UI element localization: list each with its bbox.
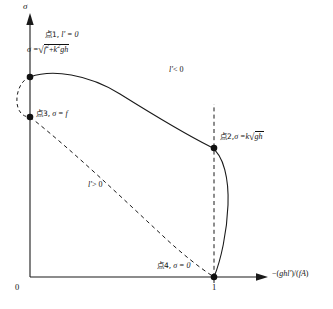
radical-sign-icon-2: √	[249, 132, 255, 143]
point-1-radicand-c: gh	[60, 45, 68, 54]
origin-tick-label: 0	[15, 283, 19, 292]
point-marker-4	[211, 274, 218, 281]
point-4-formula: σ = 0	[173, 261, 190, 270]
radical-sign-icon: √	[38, 45, 44, 56]
point-marker-3	[27, 114, 34, 121]
point-2-label: 点2,σ =k√gh	[220, 131, 264, 142]
x-axis-label-numerator: ghl'	[279, 269, 291, 278]
region-lower-relation: > 0	[92, 180, 103, 189]
figure-canvas: σ 0 1 −(ghl')/(fA) 点1, l' = 0 σ =√f2+k2g…	[0, 0, 333, 309]
point-2-radicand: gh	[255, 131, 264, 141]
unit-tick-label: 1	[212, 283, 216, 292]
point-marker-2	[211, 145, 218, 152]
solid-curve	[30, 73, 228, 277]
dashed-arc-left	[17, 77, 30, 117]
region-upper-label: l'< 0	[169, 66, 183, 74]
point-1-radicand: f2+k2gh	[44, 44, 69, 54]
dashed-curve-lower	[30, 117, 214, 277]
point-1-cjk-prefix: 点1,	[45, 30, 59, 39]
region-upper-relation: < 0	[173, 65, 184, 74]
point-2-cjk-prefix: 点2,	[220, 132, 234, 141]
point-1-condition: l' = 0	[61, 30, 78, 39]
x-axis-label: −(ghl')/(fA)	[272, 270, 308, 278]
point-1-label: 点1, l' = 0	[45, 31, 79, 39]
point-3-cjk-prefix: 点3,	[36, 109, 50, 118]
point-1-formula-lhs: σ =	[27, 45, 38, 54]
region-lower-label: l'> 0	[88, 181, 102, 189]
point-3-label: 点3, σ = f	[36, 110, 68, 118]
point-4-label: 点4, σ = 0	[157, 262, 191, 270]
x-axis-label-close: )	[306, 269, 309, 278]
x-axis-label-denominator: fA	[299, 269, 306, 278]
x-axis	[30, 273, 268, 280]
point-4-cjk-prefix: 点4,	[157, 261, 171, 270]
point-3-formula: σ = f	[52, 109, 68, 118]
point-2-formula-lhs: σ =	[234, 132, 245, 141]
x-axis-label-slash: )/(	[291, 269, 299, 278]
y-axis-symbol: σ	[23, 2, 27, 11]
point-marker-1	[27, 74, 34, 81]
point-1-formula: σ =√f2+k2gh	[27, 44, 69, 55]
